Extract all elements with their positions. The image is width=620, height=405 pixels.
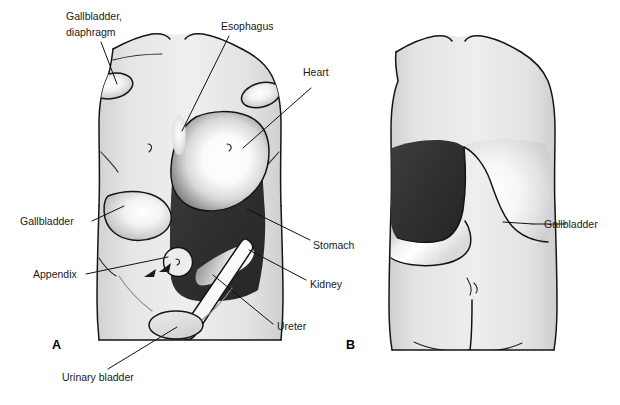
label-gallbladder-b: Gallbladder [544, 218, 598, 230]
figure-canvas: A Gallbladder, diaphragm Esophagus Heart… [0, 0, 620, 405]
zone-esophagus-a [172, 115, 186, 155]
panel-b-posterior-body: B [346, 35, 557, 352]
label-urinary-bladder: Urinary bladder [62, 371, 134, 383]
referred-pain-figure: A Gallbladder, diaphragm Esophagus Heart… [0, 0, 620, 405]
label-stomach-a: Stomach [313, 239, 355, 251]
panel-b-letter: B [346, 338, 355, 352]
label-ureter-a: Ureter [277, 320, 307, 332]
label-kidney-a: Kidney [310, 278, 343, 290]
label-heart: Heart [303, 66, 329, 78]
label-appendix: Appendix [33, 268, 78, 280]
panel-a-letter: A [52, 338, 61, 352]
label-gallbladder-diaphragm-line1: Gallbladder, [66, 10, 122, 22]
zone-appendix-a-circle [164, 248, 193, 277]
label-gallbladder-diaphragm-line2: diaphragm [66, 26, 116, 38]
label-gallbladder-a: Gallbladder [20, 215, 74, 227]
zone-stomach-b [389, 140, 465, 242]
label-esophagus: Esophagus [221, 20, 274, 32]
